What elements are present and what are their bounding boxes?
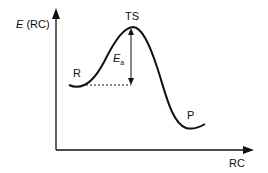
ea-subscript: a — [120, 59, 124, 66]
x-axis-label: RC — [229, 157, 245, 169]
y-axis-label: E (RC) — [16, 18, 50, 30]
product-label: P — [187, 109, 194, 121]
y-axis-arrow-icon — [52, 8, 60, 19]
reactant-label: R — [73, 67, 81, 79]
y-axis-label-text: (RC) — [23, 18, 49, 30]
activation-energy-label: Ea — [113, 52, 124, 66]
energy-curve — [69, 27, 205, 129]
transition-state-label: TS — [125, 10, 139, 22]
arrow-down-icon — [128, 78, 134, 85]
x-axis-arrow-icon — [243, 146, 254, 154]
